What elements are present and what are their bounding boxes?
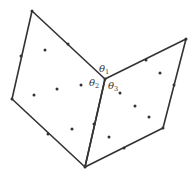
point-dot <box>108 136 111 139</box>
point-dot <box>185 38 188 41</box>
point-dot <box>84 166 87 169</box>
point-dot <box>67 43 70 46</box>
theta2-label: θ2 <box>89 77 99 90</box>
point-dot <box>20 55 23 58</box>
point-dot <box>123 147 126 150</box>
point-dot <box>44 49 47 52</box>
point-dot <box>11 98 14 101</box>
point-dot <box>33 94 36 97</box>
point-dot <box>80 84 83 87</box>
point-dot <box>31 10 34 13</box>
point-dot <box>93 123 96 126</box>
point-dot <box>145 59 148 62</box>
point-dot <box>56 88 59 91</box>
point-dot <box>162 127 165 130</box>
point-dot <box>47 133 50 136</box>
point-dot <box>71 128 74 131</box>
theta3-label: θ3 <box>108 80 118 93</box>
point-dot <box>173 84 176 87</box>
point-dot <box>134 105 137 108</box>
diagram-canvas: θ1θ2θ3 <box>0 0 195 182</box>
point-dot <box>104 78 107 81</box>
point-dot <box>119 92 122 95</box>
right-quadrilateral <box>85 39 186 167</box>
point-dot <box>159 72 162 75</box>
point-dot <box>148 116 151 119</box>
